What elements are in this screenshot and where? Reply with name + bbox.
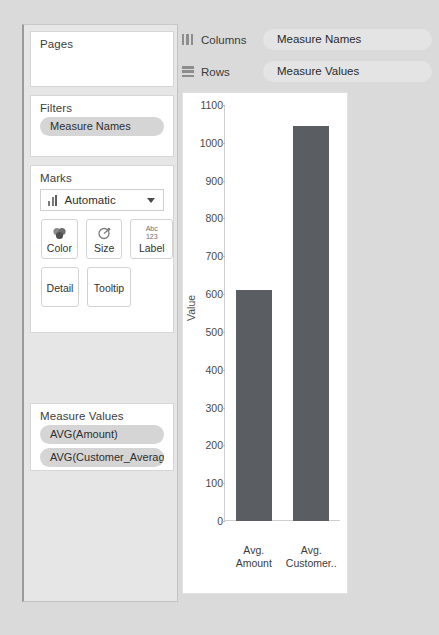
marks-tooltip-label: Tooltip bbox=[94, 282, 124, 294]
y-axis-tick-mark bbox=[221, 218, 225, 219]
y-axis-tick-label: 600 bbox=[183, 288, 223, 300]
marks-detail-button[interactable]: Detail bbox=[41, 267, 79, 307]
marks-tooltip-button[interactable]: Tooltip bbox=[87, 267, 131, 307]
rows-shelf-label: Rows bbox=[201, 66, 263, 78]
y-axis-tick-mark bbox=[221, 483, 225, 484]
y-axis-tick-label: 0 bbox=[183, 515, 223, 527]
y-axis-tick-mark bbox=[221, 332, 225, 333]
marks-button-row-1: Color Size Abc bbox=[31, 211, 173, 259]
marks-detail-label: Detail bbox=[47, 282, 74, 294]
y-axis-tick-label: 300 bbox=[183, 402, 223, 414]
bar[interactable] bbox=[236, 290, 272, 521]
plot-area: Avg.AmountAvg.Customer.. bbox=[224, 105, 340, 521]
columns-pill-measure-names[interactable]: Measure Names bbox=[263, 29, 432, 50]
y-axis-tick-mark bbox=[221, 143, 225, 144]
y-axis-labels: 010020030040050060070080090010001100 bbox=[183, 93, 223, 593]
y-axis-tick-label: 1000 bbox=[183, 137, 223, 149]
measure-value-pill-customer-average[interactable]: AVG(Customer_Averag.. bbox=[40, 448, 164, 467]
mark-type-dropdown[interactable]: Automatic bbox=[40, 189, 164, 211]
x-axis-tick-label: Avg.Amount bbox=[225, 544, 283, 569]
x-axis-tick-label: Avg.Customer.. bbox=[283, 544, 341, 569]
size-pie-icon bbox=[97, 224, 112, 241]
shelf-area: Columns Measure Names Rows Measure Value… bbox=[182, 27, 432, 91]
measure-values-title: Measure Values bbox=[31, 404, 173, 425]
abc-glyph-bottom: 123 bbox=[146, 233, 158, 240]
y-axis-tick-mark bbox=[221, 256, 225, 257]
columns-icon bbox=[182, 34, 195, 45]
bar-chart: Value 0100200300400500600700800900100011… bbox=[183, 93, 347, 593]
y-axis-tick-mark bbox=[221, 105, 225, 106]
y-axis-tick-mark bbox=[221, 408, 225, 409]
y-axis-tick-label: 1100 bbox=[183, 99, 223, 111]
y-axis-tick-mark bbox=[221, 445, 225, 446]
pages-card-title: Pages bbox=[31, 32, 173, 53]
rows-icon bbox=[182, 66, 195, 77]
marks-button-row-2: Detail Tooltip bbox=[31, 259, 173, 307]
abc-123-icon: Abc 123 bbox=[146, 224, 158, 241]
marks-color-label: Color bbox=[47, 242, 72, 254]
marks-size-label: Size bbox=[94, 242, 114, 254]
marks-size-button[interactable]: Size bbox=[86, 219, 123, 259]
tableau-worksheet: Pages Filters Measure Names Marks Automa… bbox=[0, 0, 439, 635]
marks-card-title: Marks bbox=[31, 166, 173, 187]
mark-type-value: Automatic bbox=[65, 194, 116, 206]
y-axis-tick-label: 900 bbox=[183, 175, 223, 187]
y-axis-tick-mark bbox=[221, 521, 225, 522]
marks-label-button[interactable]: Abc 123 Label bbox=[130, 219, 173, 259]
abc-glyph-top: Abc bbox=[146, 225, 158, 232]
bar[interactable] bbox=[293, 126, 329, 521]
y-axis-tick-label: 700 bbox=[183, 250, 223, 262]
bar-chart-icon bbox=[48, 195, 59, 206]
y-axis-tick-mark bbox=[221, 181, 225, 182]
y-axis-tick-label: 400 bbox=[183, 364, 223, 376]
marks-label-label: Label bbox=[139, 242, 165, 254]
y-axis-tick-mark bbox=[221, 294, 225, 295]
y-axis-tick-label: 100 bbox=[183, 477, 223, 489]
columns-shelf[interactable]: Columns Measure Names bbox=[182, 27, 432, 52]
chevron-down-icon[interactable] bbox=[147, 198, 155, 203]
y-axis-tick-label: 800 bbox=[183, 212, 223, 224]
marks-color-button[interactable]: Color bbox=[41, 219, 78, 259]
measure-values-card: Measure Values AVG(Amount) AVG(Customer_… bbox=[30, 403, 174, 471]
rows-pill-measure-values[interactable]: Measure Values bbox=[263, 61, 432, 82]
left-sidebar: Pages Filters Measure Names Marks Automa… bbox=[22, 24, 178, 602]
y-axis-tick-label: 200 bbox=[183, 439, 223, 451]
rows-shelf[interactable]: Rows Measure Values bbox=[182, 59, 432, 84]
marks-card: Marks Automatic Color bbox=[30, 165, 174, 333]
filters-card-title: Filters bbox=[31, 96, 173, 117]
y-axis-tick-label: 500 bbox=[183, 326, 223, 338]
y-axis-tick-mark bbox=[221, 370, 225, 371]
measure-value-pill-amount[interactable]: AVG(Amount) bbox=[40, 425, 164, 444]
filter-pill-measure-names[interactable]: Measure Names bbox=[40, 117, 164, 136]
color-circles-icon bbox=[52, 224, 67, 241]
filters-card[interactable]: Filters Measure Names bbox=[30, 95, 174, 157]
pages-card[interactable]: Pages bbox=[30, 31, 174, 87]
chart-card[interactable]: Value 0100200300400500600700800900100011… bbox=[182, 92, 348, 594]
columns-shelf-label: Columns bbox=[201, 34, 263, 46]
